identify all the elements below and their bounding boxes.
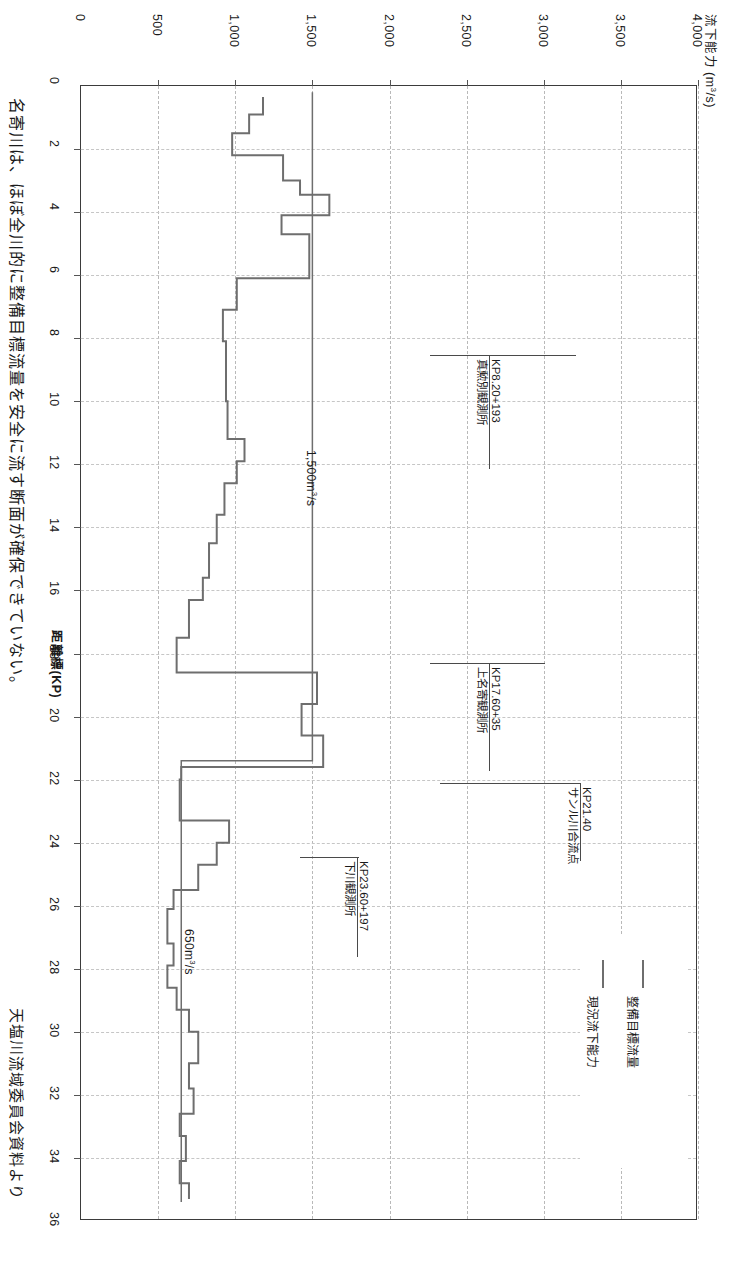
x-tick-label: 30 <box>48 1023 61 1038</box>
x-tick-label: 14 <box>48 518 61 533</box>
x-tick-label: 0 <box>48 77 61 84</box>
y-tick-label: 500 <box>151 14 164 36</box>
x-tick-label: 36 <box>48 1212 61 1227</box>
tick-mark <box>74 780 81 781</box>
source-note: 天塩川流域委員会資料より <box>9 1008 24 1200</box>
tick-mark <box>74 149 81 150</box>
annotation-kp: KP23.60+197 <box>358 861 370 931</box>
annotation-name: サンル川合流点 <box>567 787 579 864</box>
legend: 整備目標流量 現況流下能力 <box>580 936 688 1168</box>
legend-swatch-icon <box>642 960 644 988</box>
y-axis-title: 流下能力 (m3/s) <box>703 14 717 108</box>
tick-mark <box>74 843 81 844</box>
side-note: 名寄川は、ほぼ全川的に整備目標流量を安全に流す断面が確保できていない。 <box>8 98 24 693</box>
legend-label: 現況流下能力 <box>586 996 598 1068</box>
tick-mark <box>74 338 81 339</box>
legend-label: 整備目標流量 <box>626 996 638 1068</box>
x-tick-label: 22 <box>48 771 61 786</box>
annotation-kp: KP21.40 <box>581 787 593 831</box>
legend-swatch-icon <box>602 960 604 988</box>
y-tick-label: 2,000 <box>382 14 395 47</box>
series-line <box>181 92 312 1202</box>
y-tick-label: 1,500 <box>305 14 318 47</box>
x-tick-label: 26 <box>48 897 61 912</box>
tick-mark <box>74 527 81 528</box>
tick-mark <box>74 401 81 402</box>
tick-mark <box>74 969 81 970</box>
tick-mark <box>74 464 81 465</box>
annotation-name: 下川観測所 <box>344 861 356 916</box>
tick-mark <box>74 1032 81 1033</box>
tick-mark <box>74 275 81 276</box>
annotation-kp: KP8.20+193 <box>490 359 502 423</box>
x-tick-label: 6 <box>48 266 61 273</box>
annotation-leader-horizontal <box>430 355 576 356</box>
y-tick-label: 4,000 <box>691 14 704 47</box>
y-axis-title-text: 流下能力 (m3/s) <box>703 14 717 108</box>
x-tick-label: 12 <box>48 455 61 470</box>
annotation-leader-horizontal <box>300 857 359 858</box>
tick-mark <box>698 80 699 86</box>
x-tick-label: 24 <box>48 834 61 849</box>
x-tick-label: 10 <box>48 392 61 407</box>
y-tick-label: 3,000 <box>536 14 549 47</box>
x-tick-label: 2 <box>48 140 61 147</box>
x-axis-title: 距離標(KP) <box>50 630 63 698</box>
x-tick-label: 18 <box>48 645 61 660</box>
tick-mark <box>74 906 81 907</box>
tick-mark <box>74 654 81 655</box>
series-line <box>167 97 329 1199</box>
x-tick-label: 4 <box>48 203 61 210</box>
x-tick-label: 28 <box>48 960 61 975</box>
y-tick-label: 1,000 <box>228 14 241 47</box>
gridline-vertical <box>698 86 699 1219</box>
annotation-kp: KP17.60+35 <box>490 667 502 731</box>
inline-label-1500: 1,500m3/s <box>305 450 318 506</box>
annotation-leader-horizontal <box>440 783 581 784</box>
y-tick-label: 3,500 <box>613 14 626 47</box>
tick-mark <box>74 717 81 718</box>
annotation-leader-horizontal <box>430 663 545 664</box>
x-tick-label: 20 <box>48 708 61 723</box>
tick-mark <box>74 212 81 213</box>
annotation-name: 真勲別観測所 <box>476 359 488 425</box>
x-tick-label: 32 <box>48 1086 61 1101</box>
tick-mark <box>74 1158 81 1159</box>
x-tick-label: 16 <box>48 581 61 596</box>
tick-mark <box>74 1095 81 1096</box>
tick-mark <box>74 590 81 591</box>
y-tick-label: 0 <box>74 14 87 21</box>
annotation-name: 上名寄観測所 <box>476 667 488 733</box>
inline-label-650: 650m3/s <box>183 929 196 975</box>
y-tick-label: 2,500 <box>459 14 472 47</box>
x-tick-label: 8 <box>48 329 61 336</box>
x-tick-label: 34 <box>48 1149 61 1164</box>
